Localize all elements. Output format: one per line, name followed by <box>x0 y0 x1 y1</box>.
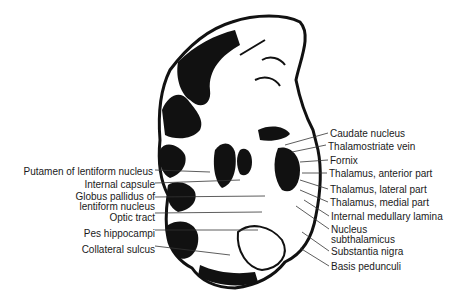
label-thalamus-lateral-part: Thalamus, lateral part <box>330 184 427 195</box>
label-pes-hippocampi: Pes hippocampi <box>84 228 155 239</box>
label-internal-medullary-lamina: Internal medullary lamina <box>331 211 443 222</box>
label-collateral-sulcus: Collateral sulcus <box>82 244 155 255</box>
label-thalamus-anterior-part: Thalamus, anterior part <box>329 168 432 179</box>
label-thalamus-medial-part: Thalamus, medial part <box>330 197 429 208</box>
label-nucleus-subthalamicus-line2: subthalamicus <box>331 234 395 245</box>
label-fornix: Fornix <box>330 155 358 166</box>
brain-coronal-section-diagram: Caudate nucleus Thalamostriate vein Forn… <box>0 0 461 296</box>
label-caudate-nucleus: Caudate nucleus <box>330 128 405 139</box>
label-thalamostriate-vein: Thalamostriate vein <box>328 141 415 152</box>
label-globus-pallidus-line2: lentiform nucleus <box>79 201 155 212</box>
label-internal-capsule: Internal capsule <box>84 179 155 190</box>
label-basis-pedunculi: Basis pedunculi <box>331 261 401 272</box>
label-optic-tract: Optic tract <box>109 212 155 223</box>
label-putamen: Putamen of lentiform nucleus <box>23 166 153 177</box>
label-substantia-nigra: Substantia nigra <box>331 246 403 257</box>
